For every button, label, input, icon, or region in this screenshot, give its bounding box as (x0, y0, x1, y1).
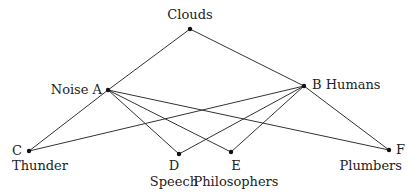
node-C (27, 149, 31, 153)
node-B (302, 84, 306, 88)
edge-A-D (108, 90, 179, 154)
label-clouds: Clouds (167, 7, 212, 22)
label-f: F (396, 142, 405, 157)
edge-B-F (304, 86, 389, 150)
label-e: E (231, 158, 241, 173)
node-A (106, 88, 110, 92)
edge-A-E (108, 90, 231, 152)
label-plumbers: Plumbers (339, 158, 402, 173)
node-F (387, 148, 391, 152)
node-clouds (188, 27, 192, 31)
label-thunder: Thunder (12, 158, 69, 173)
edge-B-D (179, 86, 304, 154)
lattice-diagram: Clouds Noise A B Humans C Thunder D Spee… (0, 0, 418, 196)
label-c: C (12, 143, 22, 158)
edge-clouds-B (190, 29, 304, 86)
label-speech: Speech (150, 174, 199, 189)
label-d: D (169, 158, 179, 173)
node-D (177, 152, 181, 156)
label-philosophers: Philosophers (193, 174, 278, 189)
label-b-humans: B Humans (312, 77, 381, 92)
node-E (229, 150, 233, 154)
label-noise-a: Noise A (51, 82, 103, 97)
edge-clouds-A (108, 29, 190, 90)
